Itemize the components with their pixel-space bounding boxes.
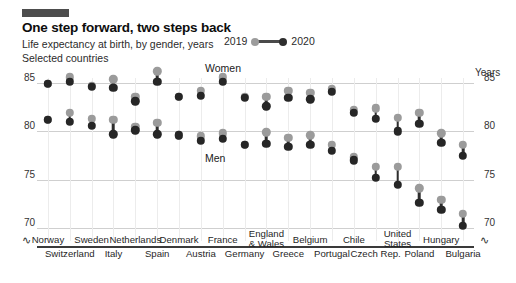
- x-axis-label-denmark: Denmark: [160, 235, 199, 245]
- x-axis-label-austria: Austria: [186, 249, 216, 259]
- gridline-75: [37, 180, 474, 181]
- legend-dot-2019-icon: [251, 38, 259, 46]
- legend-dot-2020-icon: [279, 38, 287, 46]
- category-gridline: [376, 78, 377, 241]
- chart-legend: 2019 2020: [224, 36, 315, 47]
- datapoint-2020-women: [44, 80, 52, 88]
- datapoint-2020-women: [459, 151, 467, 159]
- datapoint-2020-men: [153, 130, 161, 138]
- datapoint-2020-men: [66, 117, 74, 125]
- datapoint-2020-women: [66, 78, 74, 86]
- axis-break-right-icon: ∿: [480, 234, 489, 247]
- datapoint-2020-women: [371, 115, 379, 123]
- category-gridline: [398, 78, 399, 241]
- datapoint-2020-women: [175, 92, 183, 100]
- footer-strip: [0, 273, 516, 283]
- x-axis-label-switzerland: Switzerland: [45, 249, 95, 259]
- datapoint-2020-women: [240, 93, 248, 101]
- x-axis-label-france: France: [208, 235, 238, 245]
- datapoint-2020-men: [284, 143, 292, 151]
- datapoint-2020-women: [350, 109, 358, 117]
- x-axis-label-bulgaria: Bulgaria: [445, 249, 480, 259]
- x-axis-label-czech-rep: Czech Rep.: [351, 249, 401, 259]
- chart-subtitle: Life expectancy at birth, by gender, yea…: [22, 38, 213, 50]
- datapoint-2020-men: [87, 121, 95, 129]
- datapoint-2020-women: [219, 78, 227, 86]
- datapoint-2019-women: [393, 114, 401, 122]
- x-axis-label-belgium: Belgium: [293, 235, 328, 245]
- datapoint-2020-men: [262, 140, 270, 148]
- category-gridline: [441, 78, 442, 241]
- datapoint-2019-women: [153, 67, 161, 75]
- y-tick-right-85: 85: [484, 72, 506, 83]
- x-axis-label-hungary: Hungary: [423, 235, 459, 245]
- axis-break-left-icon: ∿: [22, 234, 31, 247]
- x-axis-label-england-wales: England& Wales: [249, 229, 284, 249]
- x-axis-label-portugal: Portugal: [314, 249, 350, 259]
- y-tick-right-75: 75: [484, 169, 506, 180]
- datapoint-2020-women: [393, 127, 401, 135]
- category-gridline: [288, 78, 289, 241]
- datapoint-2019-men: [306, 131, 314, 139]
- x-axis-label-italy: Italy: [105, 249, 123, 259]
- chart-subtitle-secondary: Selected countries: [22, 52, 108, 64]
- brand-accent-bar: [22, 9, 69, 17]
- x-axis-label-poland: Poland: [404, 249, 434, 259]
- datapoint-2019-men: [415, 184, 423, 192]
- datapoint-2019-women: [459, 141, 467, 149]
- datapoint-2020-men: [350, 156, 358, 164]
- datapoint-2020-women: [87, 83, 95, 91]
- y-tick-left-70: 70: [20, 217, 35, 228]
- annotation-women: Women: [205, 62, 241, 74]
- datapoint-2020-men: [328, 146, 336, 154]
- datapoint-2019-women: [262, 92, 270, 100]
- category-gridline: [113, 78, 114, 241]
- category-gridline: [201, 78, 202, 241]
- datapoint-2020-women: [109, 84, 117, 92]
- category-gridline: [179, 78, 180, 241]
- chart-page: One step forward, two steps back Life ex…: [0, 0, 516, 283]
- datapoint-2019-men: [459, 209, 467, 217]
- datapoint-2019-women: [415, 109, 423, 117]
- datapoint-2020-men: [240, 141, 248, 149]
- y-tick-left-75: 75: [20, 169, 35, 180]
- y-tick-left-85: 85: [20, 72, 35, 83]
- gridline-85: [37, 83, 474, 84]
- datapoint-2020-men: [197, 137, 205, 145]
- legend-label-2019: 2019: [224, 36, 247, 47]
- category-gridline: [92, 78, 93, 241]
- plot-area: [37, 78, 474, 233]
- x-axis-label-united-states: UnitedStates: [384, 229, 412, 249]
- datapoint-2019-men: [371, 163, 379, 171]
- datapoint-2020-women: [306, 95, 314, 103]
- gridline-80: [37, 131, 474, 132]
- datapoint-2020-men: [306, 141, 314, 149]
- datapoint-2020-men: [393, 180, 401, 188]
- y-tick-right-70: 70: [484, 217, 506, 228]
- category-gridline: [245, 78, 246, 241]
- category-gridline: [419, 78, 420, 241]
- datapoint-2020-women: [131, 97, 139, 105]
- y-tick-right-80: 80: [484, 120, 506, 131]
- category-gridline: [157, 78, 158, 241]
- datapoint-2020-men: [109, 130, 117, 138]
- annotation-men: Men: [205, 152, 225, 164]
- datapoint-2019-men: [262, 128, 270, 136]
- x-axis-label-greece: Greece: [273, 249, 304, 259]
- datapoint-2019-women: [437, 129, 445, 137]
- chart-title: One step forward, two steps back: [22, 20, 231, 35]
- datapoint-2019-men: [437, 196, 445, 204]
- datapoint-2020-men: [131, 126, 139, 134]
- datapoint-2020-women: [197, 91, 205, 99]
- datapoint-2019-men: [153, 118, 161, 126]
- x-axis-label-germany: Germany: [225, 249, 264, 259]
- x-axis-label-norway: Norway: [32, 235, 65, 245]
- datapoint-2020-women: [415, 119, 423, 127]
- x-axis-label-netherlands: Netherlands: [109, 235, 161, 245]
- datapoint-2019-men: [284, 134, 292, 142]
- datapoint-2019-women: [371, 104, 379, 112]
- datapoint-2020-women: [284, 93, 292, 101]
- datapoint-2020-women: [437, 139, 445, 147]
- category-gridline: [48, 78, 49, 241]
- datapoint-2020-women: [328, 87, 336, 95]
